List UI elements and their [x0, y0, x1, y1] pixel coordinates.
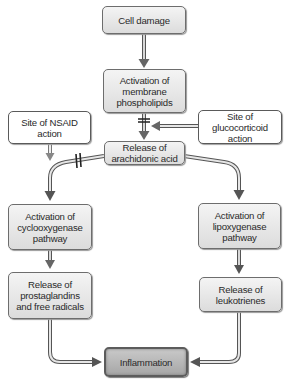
node-membrane-phospholipids: Activation of membrane phospholipids	[103, 69, 186, 113]
node-glucocorticoid-label: Site of glucocorticoid action	[199, 111, 281, 144]
arrow-arachidonic-to-lipoxygenase	[184, 156, 245, 200]
node-nsaid-label: Site of NSAID action	[21, 117, 78, 139]
arrow-prostaglandins-to-inflammation	[50, 318, 102, 367]
node-prostaglandins-label: Release of prostaglandins and free radic…	[16, 279, 84, 312]
arrow-membrane-to-arachidonic	[139, 112, 150, 140]
arrow-cell-to-membrane	[139, 33, 150, 68]
arrow-cyclooxygenase-to-prostaglandins	[45, 249, 55, 269]
node-cell-damage: Cell damage	[102, 6, 186, 34]
node-leukotrienes: Release of leukotrienes	[199, 277, 282, 312]
node-glucocorticoid-site: Site of glucocorticoid action	[198, 110, 282, 144]
node-cyclooxygenase: Activation of cyclooxygenase pathway	[8, 204, 92, 250]
arrow-leukotrienes-to-inflammation	[190, 311, 239, 367]
node-membrane-label: Activation of membrane phospholipids	[116, 75, 172, 108]
node-arachidonic-label: Release of arachidonic acid	[111, 142, 177, 164]
node-cell-damage-label: Cell damage	[118, 15, 170, 26]
node-inflammation: Inflammation	[104, 347, 188, 377]
arrow-nsaid-down	[46, 143, 55, 161]
node-lipoxygenase-label: Activation of lipoxygenase pathway	[213, 210, 267, 243]
node-nsaid-site: Site of NSAID action	[8, 111, 91, 144]
arrow-lipoxygenase-to-leukotrienes	[234, 248, 244, 274]
node-prostaglandins: Release of prostaglandins and free radic…	[8, 272, 92, 319]
arrow-glucocorticoid-inhibition	[151, 121, 198, 131]
node-lipoxygenase: Activation of lipoxygenase pathway	[198, 203, 281, 249]
node-inflammation-label: Inflammation	[120, 357, 173, 368]
arrow-arachidonic-to-cyclooxygenase	[45, 156, 105, 201]
node-cyclooxygenase-label: Activation of cyclooxygenase pathway	[17, 211, 82, 244]
node-arachidonic-acid: Release of arachidonic acid	[104, 141, 185, 165]
connector-layer	[0, 0, 291, 387]
node-leukotrienes-label: Release of leukotrienes	[216, 284, 265, 306]
